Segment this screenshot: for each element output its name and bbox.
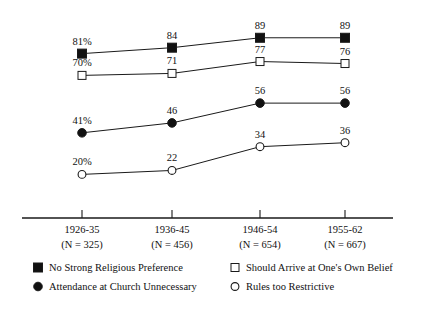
- x-axis-sample-size-label: (N = 654): [239, 239, 281, 251]
- point-label: 34: [255, 129, 266, 140]
- marker-filled-circle: [256, 99, 265, 108]
- marker-open-circle: [256, 143, 264, 151]
- series-line: [82, 103, 345, 133]
- x-axis-tick-label: 1926-35: [65, 224, 100, 235]
- series-line: [82, 38, 345, 54]
- marker-open-square: [256, 58, 264, 66]
- chart-legend: No Strong Religious PreferenceAttendance…: [34, 262, 394, 292]
- legend-item[interactable]: No Strong Religious Preference: [34, 262, 184, 273]
- marker-open-square: [341, 60, 349, 68]
- point-label: 77: [255, 44, 266, 55]
- marker-open-circle: [341, 139, 349, 147]
- x-axis-sample-size-label: (N = 456): [151, 239, 193, 251]
- legend-label: No Strong Religious Preference: [49, 262, 183, 273]
- point-label: 89: [255, 20, 266, 31]
- point-label: 81%: [72, 36, 92, 47]
- legend-item[interactable]: Rules too Restrictive: [231, 281, 334, 292]
- point-label: 56: [340, 85, 351, 96]
- series-line: [82, 62, 345, 76]
- series-line: [82, 143, 345, 175]
- point-label: 41%: [72, 115, 92, 126]
- marker-filled-square: [34, 263, 43, 272]
- point-label: 89: [340, 20, 351, 31]
- point-label: 71: [167, 55, 178, 66]
- point-label: 84: [167, 30, 178, 41]
- chart-page: 81%84898970%71777641%46565620%223436 192…: [0, 0, 426, 328]
- marker-open-circle: [168, 167, 176, 175]
- point-label: 70%: [72, 57, 92, 68]
- legend-item[interactable]: Should Arrive at One's Own Belief: [231, 262, 393, 273]
- marker-filled-circle: [341, 99, 350, 108]
- marker-open-circle: [231, 283, 239, 291]
- marker-filled-circle: [34, 282, 43, 291]
- marker-filled-square: [256, 33, 265, 42]
- line-chart: 81%84898970%71777641%46565620%223436 192…: [0, 0, 426, 328]
- point-label: 22: [167, 152, 178, 163]
- marker-open-square: [168, 69, 176, 77]
- legend-label: Should Arrive at One's Own Belief: [246, 262, 393, 273]
- x-axis-sample-size-label: (N = 325): [61, 239, 103, 251]
- marker-filled-circle: [78, 129, 87, 138]
- point-label: 36: [340, 125, 351, 136]
- x-axis-tick-label: 1936-45: [155, 224, 190, 235]
- x-axis: 1926-35(N = 325)1936-45(N = 456)1946-54(…: [22, 210, 393, 251]
- x-axis-sample-size-label: (N = 667): [324, 239, 366, 251]
- marker-open-square: [78, 71, 86, 79]
- series-0: 81%848989: [72, 20, 350, 58]
- legend-item[interactable]: Attendance at Church Unnecessary: [34, 281, 198, 292]
- series-3: 20%223436: [72, 125, 350, 179]
- x-axis-tick-label: 1946-54: [243, 224, 279, 235]
- point-label: 76: [340, 46, 351, 57]
- series-2: 41%465656: [72, 85, 350, 137]
- legend-label: Attendance at Church Unnecessary: [49, 281, 198, 292]
- point-label: 56: [255, 85, 266, 96]
- point-label: 46: [167, 105, 178, 116]
- x-axis-tick-label: 1955-62: [328, 224, 363, 235]
- marker-filled-circle: [168, 119, 177, 128]
- series-1: 70%717776: [72, 44, 350, 80]
- marker-open-circle: [78, 171, 86, 179]
- marker-filled-square: [341, 33, 350, 42]
- marker-open-square: [231, 264, 239, 272]
- plot-area: 81%84898970%71777641%46565620%223436: [72, 20, 350, 179]
- legend-label: Rules too Restrictive: [246, 281, 334, 292]
- marker-filled-square: [168, 43, 177, 52]
- point-label: 20%: [72, 156, 92, 167]
